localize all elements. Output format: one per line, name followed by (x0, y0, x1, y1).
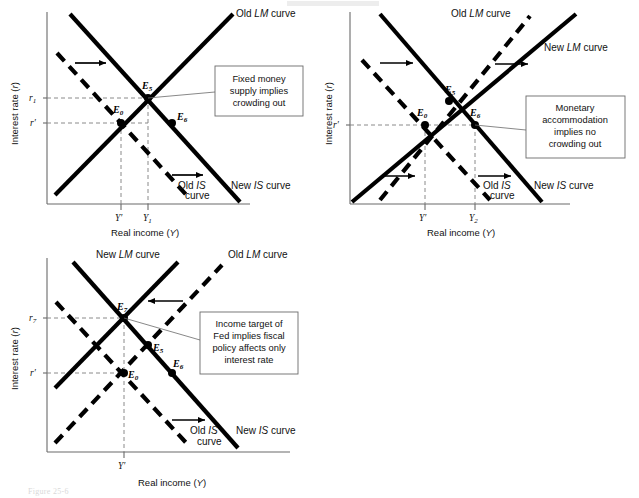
callout-line-2: supply implies (230, 86, 289, 96)
old-is-curve-label-line2: curve (490, 190, 515, 201)
callout-line-1: Monetary (556, 103, 595, 113)
y-tick-label-r7: r7 (29, 313, 37, 325)
new-is-curve-label: New IS curve (534, 180, 594, 191)
x-tick-label-yprime: Y′ (115, 213, 123, 223)
x-tick-label-y2: Y2 (469, 213, 478, 225)
point-e5-dot (445, 97, 453, 105)
callout-line-4: crowding out (549, 139, 602, 149)
point-e6-label: E6 (176, 111, 188, 124)
point-e0-label: E0 (127, 369, 139, 382)
point-e5-dot (144, 341, 152, 349)
callout-leader (475, 125, 526, 130)
x-tick-label-yprime: Y′ (419, 213, 427, 223)
isml-figure: E5 E0 E6 r1 r′ Y′ Y1 Interest rate (r) R… (0, 0, 639, 498)
x-tick-label-yprime: Y′ (118, 461, 126, 471)
point-e0-dot (120, 369, 128, 377)
panel-fixed-money-supply: E5 E0 E6 r1 r′ Y′ Y1 Interest rate (r) R… (0, 0, 320, 250)
y-axis-title: Interest rate (r) (9, 82, 20, 145)
x-axis-title: Real income (Y) (111, 227, 179, 238)
callout-line-2: Fed implies fiscal (213, 331, 284, 341)
new-lm-curve-label: New LM curve (96, 249, 160, 260)
x-axis-title: Real income (Y) (427, 227, 495, 238)
point-e6-label: E6 (172, 358, 184, 371)
y-tick-label-r1: r1 (29, 93, 36, 105)
x-tick-label-y1: Y1 (143, 213, 152, 225)
callout-line-3: crowding out (233, 98, 286, 108)
callout-line-3: policy affects only (212, 343, 286, 353)
y-tick-label-rprime: r′ (333, 120, 340, 130)
old-lm-curve (55, 265, 222, 443)
old-is-curve-label: Old IS (190, 425, 218, 436)
figure-caption-ghost: Figure 25-6 (28, 487, 69, 496)
shift-arrow-lm-left (148, 298, 183, 304)
new-is-curve (70, 14, 240, 202)
point-e6-dot (168, 369, 176, 377)
y-axis-title: Interest rate (r) (323, 82, 334, 145)
point-e6-dot (168, 119, 176, 127)
shift-arrow-lower (172, 172, 203, 178)
point-e0-label: E0 (112, 104, 124, 117)
shift-arrow-upper (75, 60, 106, 66)
y-axis-title: Interest rate (r) (9, 327, 20, 390)
point-e0-dot (117, 119, 125, 127)
new-lm-curve-label: New LM curve (544, 42, 608, 53)
callout-line-1: Income target of (215, 319, 283, 329)
shift-arrow-is-upper (380, 60, 413, 66)
callout-leader (124, 318, 200, 340)
callout-line-3: implies no (554, 127, 596, 137)
new-is-curve-label: New IS curve (236, 425, 296, 436)
shift-arrow-is-lower-right (478, 173, 511, 179)
callout-line-4: interest rate (224, 355, 273, 365)
callout-line-2: accommodation (542, 115, 608, 125)
old-lm-curve (380, 16, 530, 200)
panel-monetary-accommodation: E5 E0 E6 r′ Y′ Y2 Interest rate (r) Real… (320, 0, 639, 250)
callout-line-1: Fixed money (232, 74, 286, 84)
old-lm-curve-label: Old LM curve (236, 8, 296, 19)
y-tick-label-rprime: r′ (30, 368, 37, 378)
point-e0-dot (421, 121, 429, 129)
new-is-curve-label: New IS curve (231, 180, 291, 191)
old-lm-curve-label: Old LM curve (451, 8, 511, 19)
old-lm-curve-label: Old LM curve (228, 249, 288, 260)
shift-arrow-is-right (172, 417, 205, 423)
old-is-curve-label-line2: curve (197, 436, 222, 447)
x-axis-title: Real income (Y) (138, 477, 206, 488)
panel-income-target: E7 E5 E0 E6 r7 r′ Y′ Interest rate (r) R… (0, 240, 340, 498)
point-e5-label: E5 (141, 80, 153, 93)
old-is-curve-label-line2: curve (185, 190, 210, 201)
y-tick-label-rprime: r′ (30, 118, 37, 128)
